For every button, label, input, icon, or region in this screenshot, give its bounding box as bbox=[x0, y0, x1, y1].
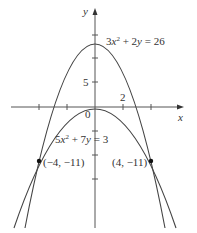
x-axis-label: x bbox=[177, 111, 183, 123]
y-tick-label-5: 5 bbox=[83, 76, 89, 88]
equation-lower: 5x2 + 7y = 3 bbox=[55, 133, 109, 145]
y-axis-arrow-icon bbox=[93, 8, 98, 15]
point-left bbox=[37, 159, 41, 163]
y-axis-label: y bbox=[82, 5, 88, 17]
x-axis-arrow-icon bbox=[177, 105, 184, 110]
x-tick-label-2: 2 bbox=[120, 91, 126, 103]
equation-upper: 3x2 + 2y = 26 bbox=[106, 35, 165, 47]
chart: y x 0 2 5 3x2 + 2y = 26 5x2 + 7y = 3 (−4… bbox=[0, 0, 197, 233]
point-label-left: (−4, −11) bbox=[43, 156, 85, 169]
origin-label: 0 bbox=[85, 108, 91, 120]
point-label-right: (4, −11) bbox=[112, 156, 147, 169]
point-right bbox=[149, 159, 153, 163]
